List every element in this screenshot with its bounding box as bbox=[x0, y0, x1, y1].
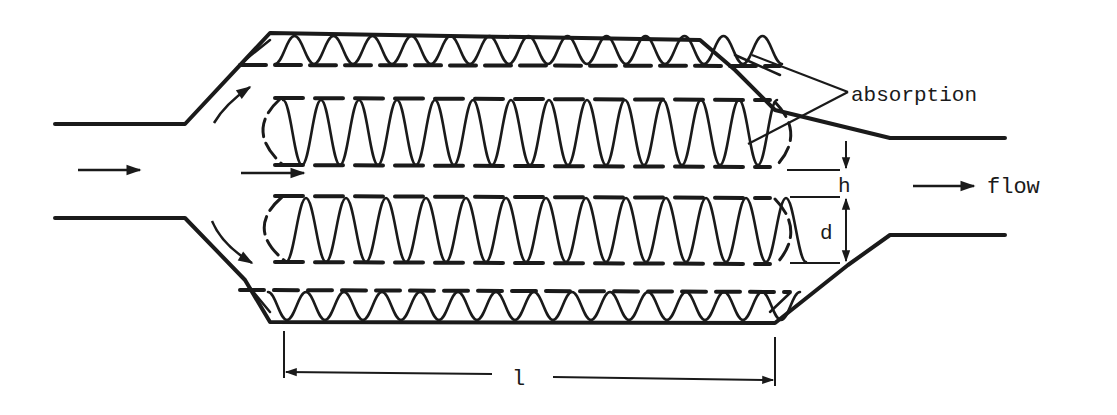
bottom-absorption-liner bbox=[240, 288, 800, 320]
absorption-label: absorption bbox=[851, 84, 977, 107]
splitter-lower bbox=[264, 196, 806, 264]
splitter-upper bbox=[263, 98, 791, 167]
d-label: d bbox=[820, 222, 833, 245]
silencer-diagram: absorption flow h d l bbox=[0, 0, 1117, 415]
dimension-l bbox=[284, 331, 775, 386]
dimension-h-d bbox=[787, 141, 846, 263]
h-label: h bbox=[838, 175, 851, 198]
downward-diverging-flow-arrow bbox=[212, 221, 252, 263]
l-label: l bbox=[512, 367, 525, 392]
lower-wall bbox=[55, 218, 1005, 323]
flow-label: flow bbox=[987, 175, 1040, 200]
duct-outline bbox=[55, 33, 1005, 323]
upward-diverging-flow-arrow bbox=[214, 87, 250, 123]
